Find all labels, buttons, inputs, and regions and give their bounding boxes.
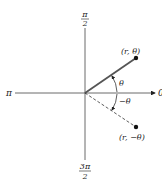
polar-diagram: π 2 3π 2 π 0 (r, θ) (r, −θ) θ −θ <box>0 0 162 183</box>
ray-theta <box>85 58 136 93</box>
theta-angle-label: θ <box>119 79 124 88</box>
point-r-neg-theta-label: (r, −θ) <box>119 133 145 142</box>
top-label-numerator: π <box>81 10 88 19</box>
neg-theta-arc <box>112 94 117 110</box>
left-label: π <box>5 88 13 98</box>
point-r-theta <box>134 56 138 60</box>
bottom-label-denominator: 2 <box>81 172 87 181</box>
neg-theta-angle-label: −θ <box>119 97 131 106</box>
right-label: 0 <box>158 88 162 98</box>
point-r-neg-theta <box>134 125 138 129</box>
bottom-label-numerator: 3π <box>80 162 91 171</box>
theta-arc <box>112 76 117 92</box>
point-r-theta-label: (r, θ) <box>121 47 140 56</box>
top-label-denominator: 2 <box>81 19 87 28</box>
